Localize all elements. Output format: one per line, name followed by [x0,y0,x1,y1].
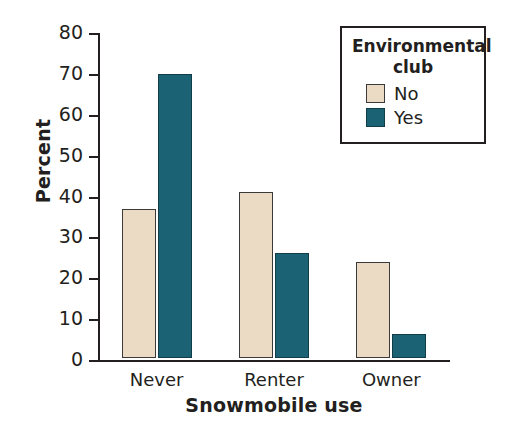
legend-title-line-1: Environmental [352,36,474,57]
y-tick-label: 0 [39,349,83,369]
y-tick-label: 40 [39,186,83,206]
legend-item-no: No [366,84,474,103]
y-tick-label: 50 [39,145,83,165]
y-tick-label: 60 [39,104,83,124]
y-tick: 60 [89,115,98,117]
y-tick: 50 [89,156,98,158]
y-tick: 80 [89,33,98,35]
bar-group [98,31,215,358]
legend-swatch-no [366,84,385,103]
legend: Environmental club NoYes [340,26,486,144]
bar-never-no [122,209,156,358]
y-tick: 40 [89,197,98,199]
legend-label-yes: Yes [394,108,423,127]
x-tick-label-never: Never [98,369,215,390]
y-tick-label: 10 [39,308,83,328]
y-tick: 70 [89,74,98,76]
legend-swatch-yes [366,108,385,127]
y-tick-label: 80 [39,22,83,42]
legend-title: Environmental club [352,36,474,78]
bar-renter-yes [275,253,309,358]
bar-never-yes [158,74,192,358]
y-tick: 10 [89,319,98,321]
bar-renter-no [239,192,273,358]
bar-owner-yes [392,334,426,358]
y-tick: 30 [89,237,98,239]
x-axis-title: Snowmobile use [98,394,450,416]
y-tick-label: 30 [39,226,83,246]
bar-owner-no [356,262,390,358]
y-tick-label: 70 [39,63,83,83]
x-tick-label-renter: Renter [215,369,332,390]
legend-entries: NoYes [352,84,474,127]
bar-chart: Percent 01020304050607080 NeverRenterOwn… [0,0,510,436]
y-tick: 0 [89,360,98,362]
legend-label-no: No [394,84,418,103]
y-tick: 20 [89,278,98,280]
x-tick-label-owner: Owner [333,369,450,390]
bar-group [215,31,332,358]
legend-title-line-2: club [352,57,474,78]
y-tick-label: 20 [39,267,83,287]
x-axis-line [98,360,450,362]
legend-item-yes: Yes [366,108,474,127]
